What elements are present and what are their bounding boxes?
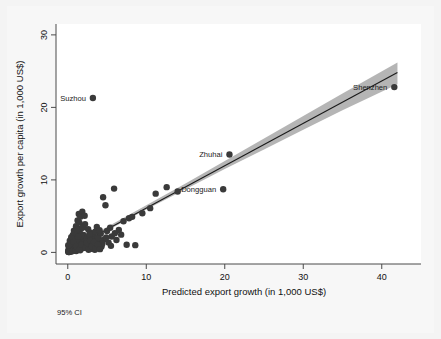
data-point <box>113 237 119 243</box>
x-tick-label: 40 <box>377 272 387 282</box>
y-axis-ticks: 0102030 <box>39 30 56 255</box>
data-point <box>107 225 113 231</box>
data-point <box>97 246 103 252</box>
x-tick-label: 20 <box>220 272 230 282</box>
data-point <box>391 84 397 90</box>
data-point <box>80 224 86 230</box>
data-point <box>163 184 169 190</box>
data-point <box>96 227 102 233</box>
y-tick-label: 20 <box>39 102 49 112</box>
data-point <box>100 194 106 200</box>
data-point <box>108 243 114 249</box>
data-point <box>174 188 180 194</box>
x-tick-label: 30 <box>298 272 308 282</box>
data-point <box>123 242 129 248</box>
data-point <box>90 95 96 101</box>
figure-container: 0102030 010203040 SuzhouZhuhaiDongguanSh… <box>0 0 441 339</box>
x-tick-label: 0 <box>65 272 70 282</box>
x-axis-title: Predicted export growth (in 1,000 US$) <box>162 286 326 297</box>
data-point <box>74 226 80 232</box>
data-point <box>103 234 109 240</box>
data-point <box>102 202 108 208</box>
data-point <box>86 231 92 237</box>
data-point <box>112 230 118 236</box>
data-point <box>111 185 117 191</box>
data-point <box>139 210 145 216</box>
data-point <box>226 151 232 157</box>
data-point <box>120 218 126 224</box>
x-tick-label: 10 <box>141 272 151 282</box>
data-point <box>220 186 226 192</box>
figure-canvas: 0102030 010203040 SuzhouZhuhaiDongguanSh… <box>7 6 434 333</box>
point-annotation-label: Suzhou <box>60 94 86 103</box>
data-point <box>81 213 87 219</box>
data-point <box>75 234 81 240</box>
ci-note-label: 95% CI <box>57 308 82 317</box>
y-tick-label: 0 <box>39 250 49 255</box>
point-annotation-label: Shenzhen <box>353 83 387 92</box>
y-tick-label: 10 <box>39 175 49 185</box>
data-point <box>152 190 158 196</box>
point-annotation-label: Zhuhai <box>199 150 223 159</box>
data-point <box>147 205 153 211</box>
x-axis-ticks: 010203040 <box>65 264 386 282</box>
data-point <box>132 242 138 248</box>
point-annotation-label: Dongguan <box>181 185 216 194</box>
y-tick-label: 30 <box>39 30 49 40</box>
scatter-chart: 0102030 010203040 SuzhouZhuhaiDongguanSh… <box>7 6 434 333</box>
data-point <box>129 214 135 220</box>
data-point <box>118 231 124 237</box>
y-axis-title: Export growth per capita (in 1,000 US$) <box>14 61 25 228</box>
